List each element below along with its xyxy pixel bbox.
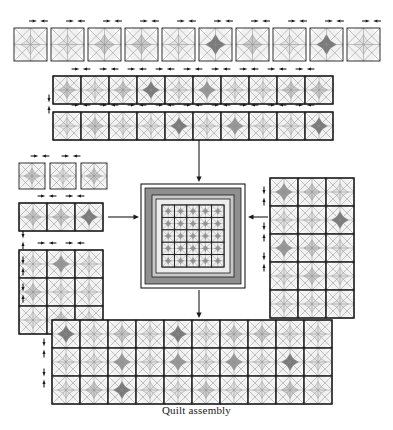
arrow-head-right bbox=[159, 68, 163, 71]
quilt-block bbox=[298, 262, 326, 290]
arrow-head-right bbox=[144, 20, 148, 23]
seam-arrow-pair-horizontal bbox=[212, 68, 231, 71]
seam-arrow-pair-horizontal bbox=[296, 68, 315, 71]
arrow-head-right bbox=[69, 195, 73, 198]
seam-arrow-pair-horizontal bbox=[251, 20, 270, 23]
medallion-center-block bbox=[162, 230, 174, 242]
quilt-block bbox=[19, 163, 45, 189]
medallion-center-block bbox=[187, 205, 199, 217]
quilt-block bbox=[304, 376, 332, 404]
seam-arrow-pair-horizontal bbox=[156, 68, 175, 71]
arrow-head-right bbox=[65, 155, 69, 158]
left-assembled-strip bbox=[19, 195, 103, 232]
arrow-head-right bbox=[131, 68, 135, 71]
quilt-block bbox=[75, 203, 103, 231]
quilt-block bbox=[304, 320, 332, 348]
arrow-head-left bbox=[49, 242, 53, 245]
arrow-head-left bbox=[40, 20, 44, 23]
quilt-block bbox=[80, 320, 108, 348]
medallion-center-block bbox=[187, 242, 199, 254]
seam-arrow-pair-strip-rows bbox=[48, 95, 51, 114]
quilt-block bbox=[136, 320, 164, 348]
quilt-block bbox=[221, 76, 249, 104]
seam-arrow-pair-horizontal bbox=[38, 242, 57, 245]
quilt-block bbox=[108, 376, 136, 404]
medallion-center-block bbox=[174, 230, 186, 242]
seam-arrow-pair-horizontal bbox=[128, 68, 147, 71]
diagram-canvas bbox=[0, 0, 393, 430]
arrow-head-right bbox=[187, 68, 191, 71]
arrow-head-right bbox=[271, 68, 275, 71]
quilt-block bbox=[75, 278, 103, 306]
quilt-block bbox=[248, 348, 276, 376]
arrow-head-left bbox=[373, 20, 377, 23]
quilt-block bbox=[236, 28, 269, 61]
quilt-block bbox=[52, 348, 80, 376]
left-loose-blocks bbox=[19, 155, 107, 190]
arrow-head-right bbox=[41, 242, 45, 245]
quilt-block bbox=[19, 306, 47, 334]
quilt-block bbox=[53, 76, 81, 104]
medallion-center-block bbox=[199, 205, 211, 217]
quilt-block bbox=[276, 348, 304, 376]
quilt-block bbox=[326, 206, 354, 234]
medallion-center-block bbox=[162, 242, 174, 254]
quilt-block bbox=[108, 348, 136, 376]
arrow-head-left bbox=[77, 20, 81, 23]
quilt-block bbox=[326, 178, 354, 206]
arrow-head-left bbox=[151, 20, 155, 23]
quilt-block bbox=[276, 376, 304, 404]
arrow-head-right bbox=[103, 68, 107, 71]
seam-arrow-pair-right-c bbox=[263, 253, 266, 272]
seam-arrow-pair-horizontal bbox=[72, 68, 91, 71]
arrow-head-left bbox=[225, 20, 229, 23]
top-row-loose-blocks bbox=[14, 20, 381, 62]
assembled-strip-row-1 bbox=[53, 68, 333, 105]
arrow-head-right bbox=[34, 155, 38, 158]
arrow-head-left bbox=[42, 155, 46, 158]
quilt-block bbox=[347, 28, 380, 61]
quilt-block bbox=[193, 112, 221, 140]
quilt-block bbox=[80, 348, 108, 376]
arrow-head-right bbox=[75, 68, 79, 71]
seam-arrow-pair-horizontal bbox=[184, 68, 203, 71]
arrow-head-up bbox=[263, 264, 266, 268]
arrow-head-right bbox=[218, 20, 222, 23]
quilt-block bbox=[220, 320, 248, 348]
arrow-head-left bbox=[77, 242, 81, 245]
seam-arrow-pair-right-b bbox=[263, 223, 266, 242]
quilt-block bbox=[50, 163, 76, 189]
center-medallion bbox=[141, 184, 245, 288]
quilt-block bbox=[162, 28, 195, 61]
medallion-center-block bbox=[199, 242, 211, 254]
arrow-head-left bbox=[299, 20, 303, 23]
quilt-block bbox=[249, 76, 277, 104]
quilt-block bbox=[88, 28, 121, 61]
arrow-head-right bbox=[181, 20, 185, 23]
arrow-head-down bbox=[43, 372, 46, 376]
quilt-block bbox=[47, 250, 75, 278]
quilt-block bbox=[164, 320, 192, 348]
arrow-head-up bbox=[43, 380, 46, 384]
quilt-block bbox=[220, 348, 248, 376]
quilt-block bbox=[326, 234, 354, 262]
quilt-block bbox=[270, 262, 298, 290]
figure-caption: Quilt assembly bbox=[0, 404, 393, 416]
arrow-head-left bbox=[49, 195, 53, 198]
quilt-block bbox=[193, 76, 221, 104]
arrow-head-right bbox=[255, 20, 259, 23]
seam-arrow-pair-horizontal bbox=[288, 20, 307, 23]
medallion-center-block bbox=[212, 205, 224, 217]
arrow-head-up bbox=[22, 242, 25, 246]
quilt-block bbox=[51, 28, 84, 61]
seam-arrow-pair-horizontal bbox=[62, 155, 81, 158]
connector-arrowhead bbox=[196, 313, 201, 319]
quilt-block bbox=[108, 320, 136, 348]
quilt-block bbox=[165, 112, 193, 140]
seam-arrow-pair-horizontal bbox=[325, 20, 344, 23]
quilt-block bbox=[273, 28, 306, 61]
quilt-block bbox=[165, 76, 193, 104]
quilt-block bbox=[81, 76, 109, 104]
arrow-head-left bbox=[114, 20, 118, 23]
arrow-head-down bbox=[48, 98, 51, 102]
